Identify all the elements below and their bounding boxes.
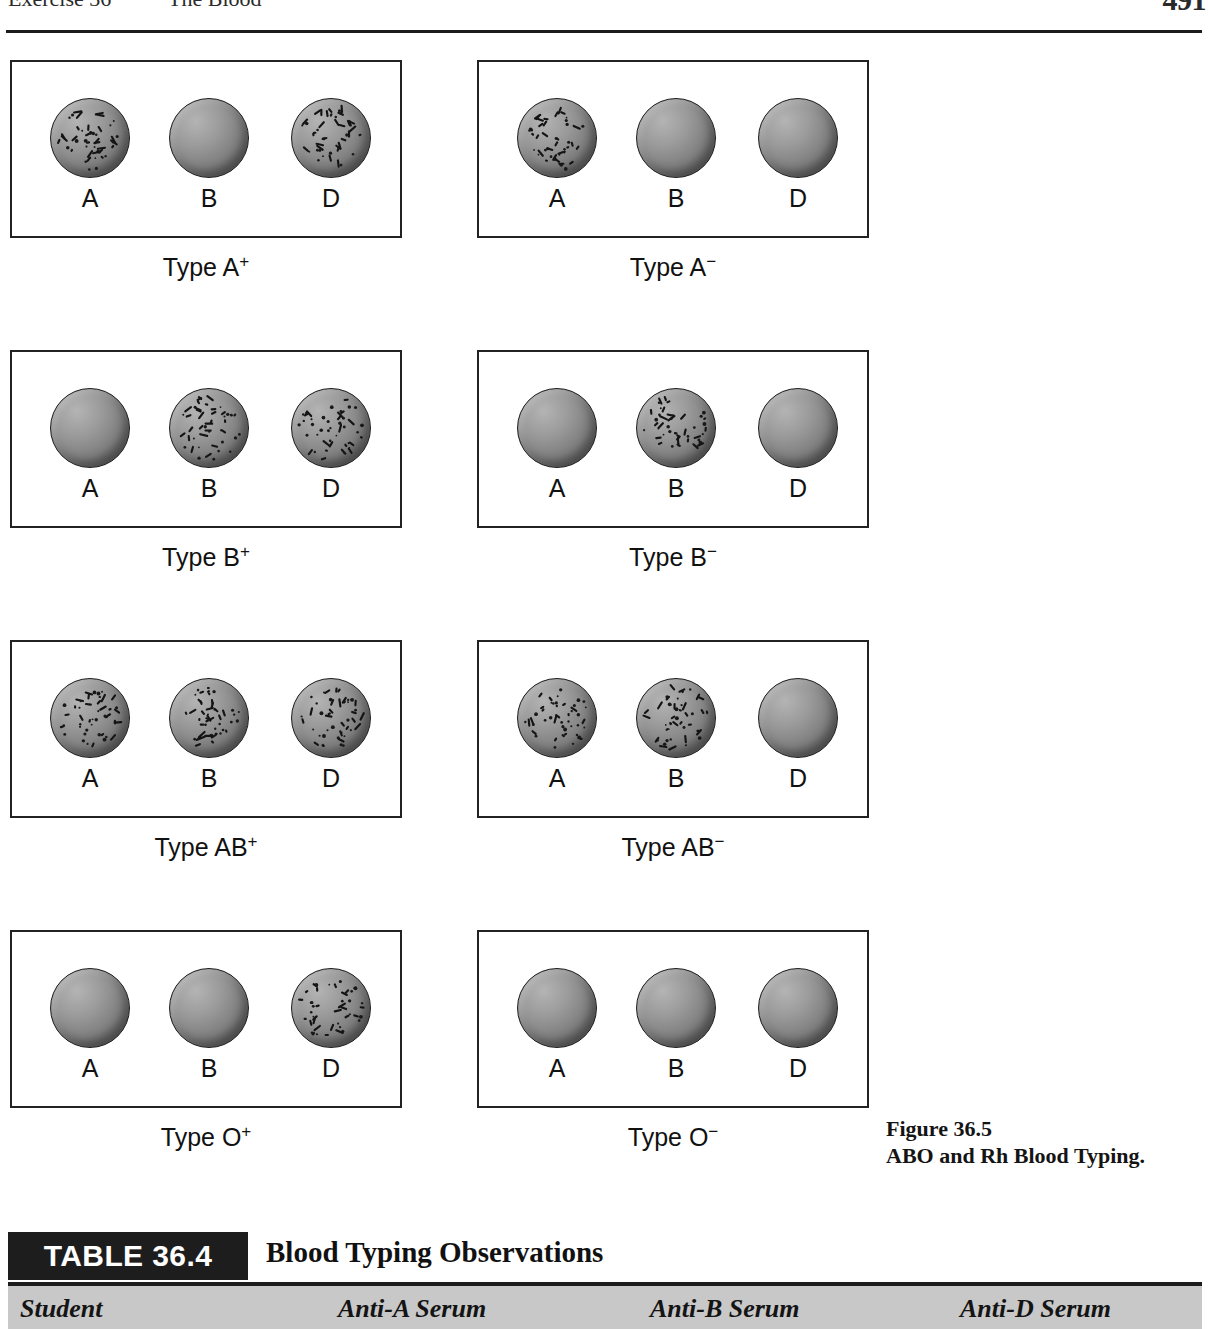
blood-drop-agglutinated [291,678,371,758]
well-label: A [517,1054,597,1083]
running-head-exercise: Exercise 36 [8,0,111,12]
blood-drop-agglutinated [517,678,597,758]
well-label: B [169,474,249,503]
well-label: D [291,1054,371,1083]
panel-caption: Type AB+ [10,832,402,862]
panel-caption-rh-sign: + [240,542,250,561]
well-label: B [169,184,249,213]
blood-drop-agglutinated [50,678,130,758]
blood-drop-smooth [636,98,716,178]
slide-box: ABD [477,930,869,1108]
panel-caption-text: Type O [628,1123,709,1151]
blood-drop-smooth [50,388,130,468]
blood-drop-agglutinated [169,388,249,468]
well-label: A [50,474,130,503]
panel-caption-text: Type AB [154,833,247,861]
panel-caption: Type B+ [10,542,402,572]
blood-drop-agglutinated [636,388,716,468]
figure-legend: Figure 36.5 ABO and Rh Blood Typing. [886,1116,1208,1170]
blood-drop-smooth [636,968,716,1048]
well-label: A [50,184,130,213]
agglutination-clumps [51,679,129,757]
blood-type-panel: ABDType A+ [10,60,402,290]
panel-caption-text: Type A [630,253,706,281]
slide-box: ABD [477,350,869,528]
panel-caption-rh-sign: − [707,542,717,561]
page-number: 491 [1163,0,1207,17]
panel-caption: Type O+ [10,1122,402,1152]
panel-caption-text: Type AB [621,833,714,861]
panel-caption-rh-sign: + [248,832,258,851]
header-rule [6,30,1202,33]
panel-caption-rh-sign: − [715,832,725,851]
blood-drop-smooth [758,968,838,1048]
blood-drop-agglutinated [291,968,371,1048]
table-column-header-student: Student [20,1294,102,1324]
well-label: D [758,184,838,213]
blood-drop-smooth [758,678,838,758]
figure-legend-number: Figure 36.5 [886,1116,1208,1143]
table-column-header-anti-d: Anti-D Serum [960,1294,1111,1324]
well-label: A [517,184,597,213]
agglutination-clumps [637,679,715,757]
panel-caption-text: Type O [161,1123,242,1151]
blood-drop-smooth [517,968,597,1048]
blood-drop-smooth [169,968,249,1048]
agglutination-clumps [292,99,370,177]
blood-type-panel: ABDType B− [477,350,869,580]
table-number-tab: TABLE 36.4 [8,1232,248,1280]
panel-caption: Type A− [477,252,869,282]
running-head-title: The Blood [168,0,262,12]
table-column-header-anti-a: Anti-A Serum [338,1294,486,1324]
agglutination-clumps [637,389,715,467]
blood-drop-agglutinated [291,388,371,468]
panel-caption: Type A+ [10,252,402,282]
panel-caption: Type B− [477,542,869,572]
blood-drop-smooth [758,388,838,468]
blood-drop-agglutinated [636,678,716,758]
panel-caption-rh-sign: + [239,252,249,271]
agglutination-clumps [292,679,370,757]
panel-caption-rh-sign: − [706,252,716,271]
agglutination-clumps [170,389,248,467]
well-label: B [169,764,249,793]
blood-type-panel: ABDType B+ [10,350,402,580]
well-label: A [517,474,597,503]
agglutination-clumps [292,389,370,467]
table-column-header-anti-b: Anti-B Serum [650,1294,800,1324]
blood-type-panel: ABDType O+ [10,930,402,1160]
slide-box: ABD [10,60,402,238]
agglutination-clumps [518,99,596,177]
blood-type-panel: ABDType O− [477,930,869,1160]
blood-drop-agglutinated [291,98,371,178]
figure-legend-title: ABO and Rh Blood Typing. [886,1143,1208,1170]
well-label: B [636,474,716,503]
well-label: A [50,1054,130,1083]
slide-box: ABD [10,930,402,1108]
agglutination-clumps [170,679,248,757]
well-label: B [636,1054,716,1083]
well-label: B [169,1054,249,1083]
running-head: Exercise 36 The Blood 491 [0,0,1208,34]
well-label: D [291,474,371,503]
well-label: A [50,764,130,793]
table-header-row: Student Anti-A Serum Anti-B Serum Anti-D… [8,1286,1202,1329]
well-label: B [636,184,716,213]
well-label: B [636,764,716,793]
blood-drop-agglutinated [50,98,130,178]
blood-drop-agglutinated [169,678,249,758]
blood-type-panel: ABDType AB− [477,640,869,870]
blood-drop-smooth [758,98,838,178]
blood-type-panel: ABDType AB+ [10,640,402,870]
panel-caption-rh-sign: − [708,1122,718,1141]
slide-box: ABD [10,640,402,818]
blood-type-panel: ABDType A− [477,60,869,290]
slide-box: ABD [10,350,402,528]
panel-caption-text: Type B [162,543,240,571]
agglutination-clumps [51,99,129,177]
agglutination-clumps [292,969,370,1047]
blood-drop-smooth [517,388,597,468]
table-heading: Blood Typing Observations [266,1236,603,1269]
panel-caption: Type O− [477,1122,869,1152]
agglutination-clumps [518,679,596,757]
